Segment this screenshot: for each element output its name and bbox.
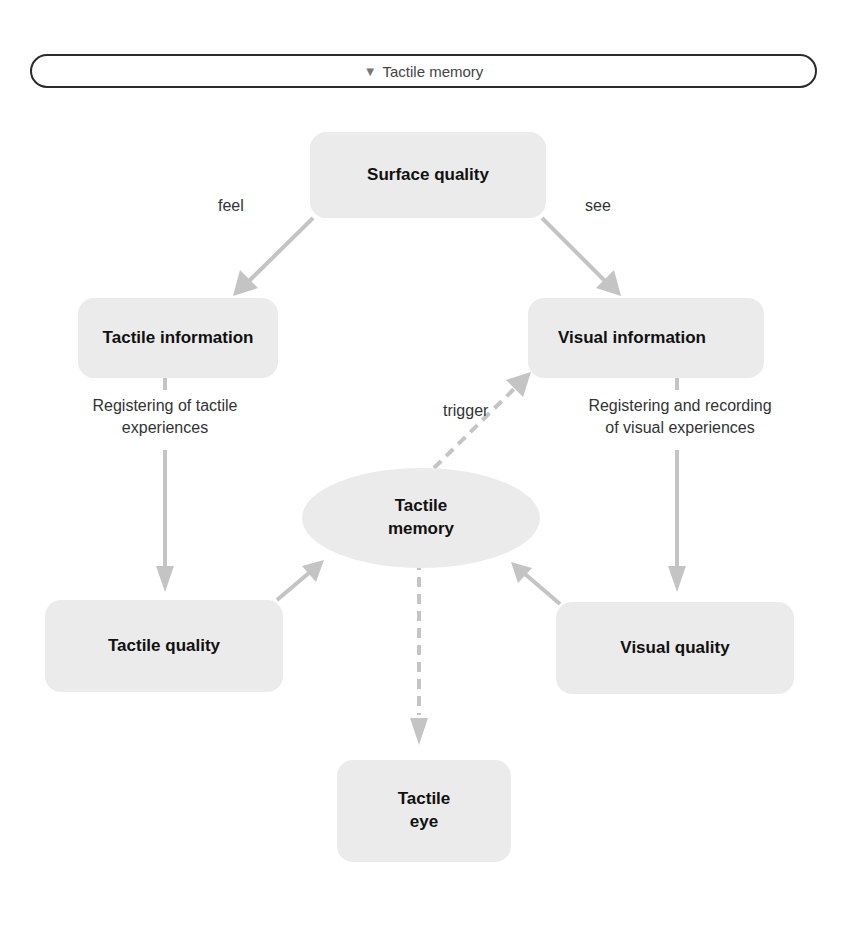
node-label: Surface quality [367, 164, 489, 187]
node-label: Tactile quality [108, 635, 220, 658]
edge-label-registering-tactile: Registering of tactile experiences [55, 395, 275, 438]
node-label-line1: Tactile [398, 788, 451, 811]
node-visual-information: Visual information [528, 298, 764, 378]
arrowhead-tq-memory [302, 560, 324, 582]
arrowhead-visual-down [668, 566, 686, 592]
edge-label-see: see [585, 195, 611, 217]
node-surface-quality: Surface quality [310, 132, 546, 218]
node-label-line1: Tactile [388, 495, 454, 518]
label-line1: Registering and recording [555, 395, 805, 417]
node-label-line2: memory [388, 518, 454, 541]
node-visual-quality: Visual quality [556, 602, 794, 694]
arrow-see [542, 218, 606, 282]
label-line2: of visual experiences [555, 417, 805, 439]
node-tactile-quality: Tactile quality [45, 600, 283, 692]
arrowhead-tactile-down [156, 566, 174, 592]
node-label: Visual information [558, 327, 706, 350]
node-tactile-information: Tactile information [78, 298, 278, 378]
edge-label-trigger: trigger [443, 400, 488, 422]
node-tactile-memory: Tactile memory [302, 468, 540, 568]
node-tactile-eye: Tactile eye [337, 760, 511, 862]
edge-label-registering-visual: Registering and recording of visual expe… [555, 395, 805, 438]
node-label: Visual quality [620, 637, 729, 660]
label-line1: Registering of tactile [55, 395, 275, 417]
arrowhead-eye [410, 718, 428, 745]
arrow-feel [248, 218, 313, 282]
label-line2: experiences [55, 417, 275, 439]
node-label: Tactile information [103, 327, 254, 350]
edge-label-feel: feel [218, 195, 244, 217]
node-label-line2: eye [398, 811, 451, 834]
